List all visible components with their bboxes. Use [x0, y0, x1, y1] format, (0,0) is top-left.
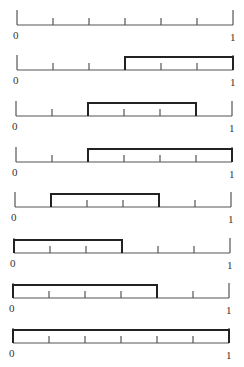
number-line-row-6 — [14, 238, 230, 253]
axis-label-zero: 0 — [9, 348, 15, 359]
axis-label-zero: 0 — [12, 167, 18, 178]
axis-label-one: 1 — [229, 123, 235, 134]
axis-label-zero: 0 — [13, 75, 19, 86]
number-line-row-1 — [17, 10, 233, 25]
number-line-row-4 — [16, 147, 232, 162]
axis-label-one: 1 — [226, 305, 232, 316]
axis-label-zero: 0 — [10, 258, 16, 269]
number-line-row-7 — [13, 283, 229, 298]
interval-box — [88, 103, 196, 116]
number-line-row-2 — [17, 55, 233, 70]
axis-label-zero: 0 — [9, 303, 15, 314]
number-line-diagram — [0, 0, 244, 367]
axis-label-one: 1 — [230, 32, 236, 43]
interval-box — [51, 194, 159, 207]
number-line-row-5 — [15, 192, 231, 207]
interval-box — [125, 57, 233, 70]
axis-label-one: 1 — [229, 169, 235, 180]
axis-label-zero: 0 — [11, 212, 17, 223]
axis-label-one: 1 — [226, 350, 232, 361]
axis-label-one: 1 — [227, 260, 233, 271]
number-line-row-3 — [16, 101, 232, 116]
interval-box — [14, 240, 122, 253]
axis-label-zero: 0 — [12, 121, 18, 132]
axis-label-one: 1 — [230, 77, 236, 88]
axis-label-zero: 0 — [13, 30, 19, 41]
axis-label-one: 1 — [228, 214, 234, 225]
number-line-row-8 — [13, 328, 229, 343]
